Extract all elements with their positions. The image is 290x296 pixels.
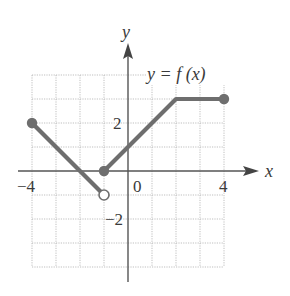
curve-segment-2 — [104, 99, 224, 171]
closed-endpoint-icon — [99, 166, 109, 176]
open-endpoint-icon — [99, 190, 109, 200]
y-tick-2: 2 — [113, 114, 122, 133]
y-tick-neg2: −2 — [105, 210, 123, 229]
function-graph: x y −4 0 4 2 −2 y = f (x) — [0, 0, 290, 296]
y-axis-label: y — [120, 22, 130, 42]
closed-endpoint-icon — [219, 94, 229, 104]
x-axis-label: x — [264, 161, 273, 181]
x-tick-neg4: −4 — [17, 177, 36, 196]
x-tick-4: 4 — [219, 177, 228, 196]
x-tick-0: 0 — [133, 177, 142, 196]
closed-endpoint-icon — [27, 118, 37, 128]
curve-segment-1 — [32, 123, 104, 195]
function-label: y = f (x) — [145, 64, 206, 85]
